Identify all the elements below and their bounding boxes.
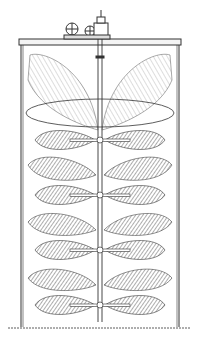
flow-loop-1-2 bbox=[28, 157, 172, 180]
impeller-4 bbox=[35, 296, 165, 315]
shaft bbox=[96, 39, 104, 322]
impeller-2 bbox=[35, 186, 165, 205]
impeller-3 bbox=[35, 241, 165, 260]
flow-loop-2-3 bbox=[28, 213, 172, 235]
top-flow-pattern bbox=[26, 54, 174, 130]
flow-loop-3-4 bbox=[28, 269, 172, 290]
mixing-vessel-diagram bbox=[0, 0, 197, 341]
drive-unit bbox=[64, 10, 110, 39]
impeller-1 bbox=[35, 131, 165, 150]
